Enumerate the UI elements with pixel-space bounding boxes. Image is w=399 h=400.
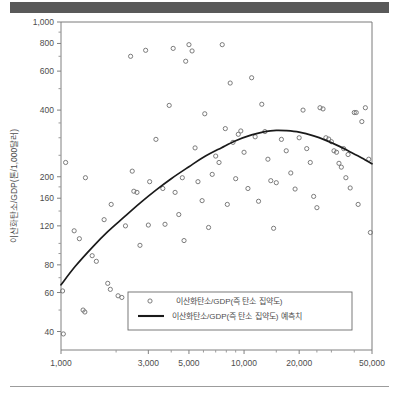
data-point <box>274 181 278 185</box>
data-point <box>94 259 98 263</box>
y-tick-label: 80 <box>45 260 55 270</box>
data-point <box>339 165 343 169</box>
data-point <box>77 237 81 241</box>
data-point <box>130 169 134 173</box>
y-tick-label: 40 <box>45 327 55 337</box>
x-tick-label: 10,000 <box>231 358 257 368</box>
data-point <box>187 43 191 47</box>
data-point <box>360 119 364 123</box>
data-point <box>242 150 246 154</box>
data-point <box>123 224 127 228</box>
y-tick-label: 160 <box>40 193 54 203</box>
data-point <box>163 222 167 226</box>
data-point <box>348 186 352 190</box>
data-point <box>190 49 194 53</box>
y-tick-label: 600 <box>40 66 54 76</box>
data-point <box>167 103 171 107</box>
data-point <box>83 176 87 180</box>
data-point <box>180 176 184 180</box>
scatter-chart: 4060801201602004006008001,0001,0003,0005… <box>0 13 399 368</box>
data-point <box>344 176 348 180</box>
data-point <box>246 186 250 190</box>
data-point <box>210 172 214 176</box>
data-point <box>220 43 224 47</box>
data-point <box>171 46 175 50</box>
y-tick-label: 1,000 <box>33 17 55 27</box>
data-point <box>308 160 312 164</box>
data-point <box>256 199 260 203</box>
legend-label-scatter: 이산화탄소/GDP(즉 탄소 집약도) <box>176 296 283 306</box>
y-tick-label: 120 <box>40 221 54 231</box>
data-point <box>108 287 112 291</box>
data-point <box>297 136 301 140</box>
y-tick-label: 60 <box>45 288 55 298</box>
data-point <box>346 152 350 156</box>
chart-canvas: 4060801201602004006008001,0001,0003,0005… <box>0 13 399 368</box>
data-point <box>196 180 200 184</box>
data-point <box>363 106 367 110</box>
data-point <box>154 137 158 141</box>
data-point <box>138 243 142 247</box>
data-point <box>184 59 188 63</box>
data-point <box>182 238 186 242</box>
data-point <box>250 76 254 80</box>
data-point <box>64 160 68 164</box>
data-point <box>206 225 210 229</box>
data-point <box>253 135 257 139</box>
data-point <box>284 149 288 153</box>
data-point <box>312 194 316 198</box>
data-point <box>102 218 106 222</box>
data-point <box>279 137 283 141</box>
figure-page: 4060801201602004006008001,0001,0003,0005… <box>0 0 399 400</box>
data-point <box>269 179 273 183</box>
footer-rule <box>10 386 389 387</box>
legend-label-line: 이산화탄소/GDP(즉 탄소 집약도) 예측치 <box>172 311 302 321</box>
data-point <box>305 147 309 151</box>
y-tick-label: 200 <box>40 172 54 182</box>
data-point <box>148 180 152 184</box>
data-point <box>315 206 319 210</box>
data-point <box>225 202 229 206</box>
data-point <box>214 154 218 158</box>
x-tick-label: 20,000 <box>286 358 312 368</box>
data-point <box>146 223 150 227</box>
data-point <box>61 332 65 336</box>
data-point <box>177 212 181 216</box>
x-tick-label: 3,000 <box>138 358 160 368</box>
y-tick-label: 400 <box>40 105 54 115</box>
data-point <box>289 171 293 175</box>
data-point <box>217 160 221 164</box>
data-point <box>120 295 124 299</box>
x-tick-label: 1,000 <box>50 358 72 368</box>
x-tick-label: 5,000 <box>178 358 200 368</box>
data-point <box>266 157 270 161</box>
data-point <box>260 102 264 106</box>
fit-curve <box>61 130 372 285</box>
data-point <box>72 229 76 233</box>
x-tick-label: 50,000 <box>359 358 385 368</box>
data-point <box>293 187 297 191</box>
data-point <box>228 81 232 85</box>
data-point <box>173 190 177 194</box>
header-bar <box>10 2 389 13</box>
data-point <box>203 112 207 116</box>
data-point <box>356 202 360 206</box>
y-tick-label: 800 <box>40 38 54 48</box>
data-point <box>129 54 133 58</box>
y-axis-title: 이산화탄소/GDP(톤/1,000달러) <box>9 129 19 243</box>
data-point <box>223 127 227 131</box>
data-point <box>106 281 110 285</box>
data-point <box>301 108 305 112</box>
data-point <box>90 254 94 258</box>
data-point <box>193 146 197 150</box>
data-point <box>161 186 165 190</box>
data-point <box>109 202 113 206</box>
data-point <box>239 129 243 133</box>
data-point <box>234 177 238 181</box>
data-point <box>200 199 204 203</box>
data-point <box>271 226 275 230</box>
data-point <box>144 48 148 52</box>
